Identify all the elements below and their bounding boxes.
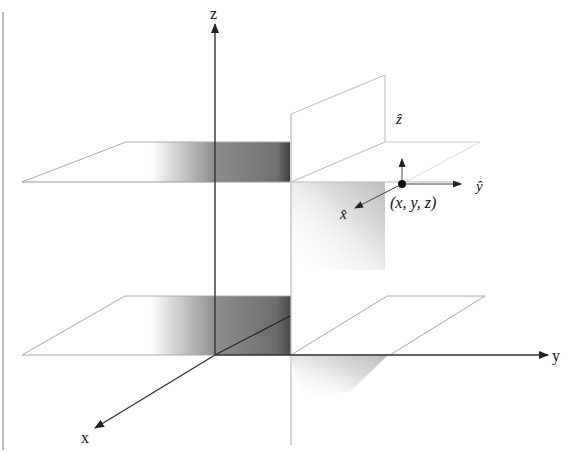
z-axis-label: z [210,5,217,22]
lower-plane-shading [125,296,290,355]
upper-plane [22,142,290,182]
x-axis-label: x [81,429,89,446]
z-hat-label: ẑ [395,111,402,127]
coordinate-diagram: z y x ẑ ŷ x̂ (x, y, z) [0,0,572,453]
vertical-plane-shading [291,182,385,270]
y-hat-label: ŷ [474,178,483,194]
x-hat-label: x̂ [339,206,347,222]
lower-right-shading [291,356,387,395]
y-axis-label: y [552,347,560,365]
lower-right-plane [291,296,485,395]
upper-plane-shading [126,142,290,182]
x-axis [95,355,215,428]
point-label: (x, y, z) [390,194,436,212]
point-marker [398,180,406,188]
lower-plane [22,296,290,355]
